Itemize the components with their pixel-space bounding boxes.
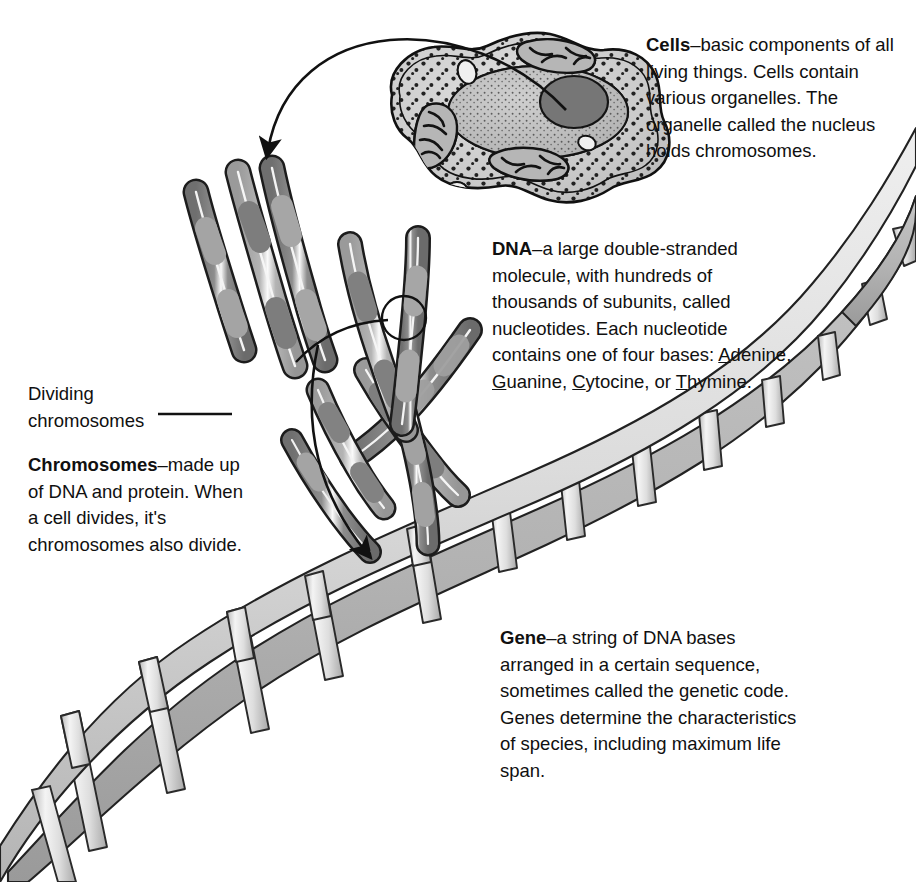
callout-cells: Cells–basic components of all living thi… xyxy=(646,32,908,165)
figure-canvas: Cells–basic components of all living thi… xyxy=(0,0,916,882)
callout-cells-dash: – xyxy=(690,34,700,55)
dna-base-initial-T: T xyxy=(676,371,687,392)
dna-base-initial-A: A xyxy=(718,344,730,365)
callout-gene-dash: – xyxy=(546,627,556,648)
callout-cells-term: Cells xyxy=(646,34,690,55)
callout-dividing-line2: chromosomes xyxy=(28,408,238,435)
animal-cell xyxy=(380,25,680,215)
callout-dividing-chromosomes: Dividing chromosomes xyxy=(28,381,238,434)
callout-gene: Gene–a string of DNA bases arranged in a… xyxy=(500,625,810,784)
callout-chromosomes: Chromosomes–made up of DNA and protein. … xyxy=(28,452,258,558)
callout-gene-body: a string of DNA bases arranged in a cert… xyxy=(500,627,796,781)
dna-base-name-C: ytocine xyxy=(586,371,645,392)
callout-dividing-line1: Dividing xyxy=(28,381,238,408)
dna-base-initial-G: G xyxy=(492,371,506,392)
callout-gene-term: Gene xyxy=(500,627,546,648)
dna-base-name-A: denine xyxy=(731,344,787,365)
callout-dna-dash: – xyxy=(532,238,542,259)
callout-chromosomes-dash: – xyxy=(158,454,168,475)
dna-base-name-T: hymine xyxy=(687,371,747,392)
dna-base-name-G: uanine xyxy=(506,371,562,392)
callout-dna-term: DNA xyxy=(492,238,532,259)
callout-chromosomes-term: Chromosomes xyxy=(28,454,158,475)
callout-dna: DNA–a large double-stranded molecule, wi… xyxy=(492,236,792,395)
dna-base-initial-C: C xyxy=(572,371,585,392)
